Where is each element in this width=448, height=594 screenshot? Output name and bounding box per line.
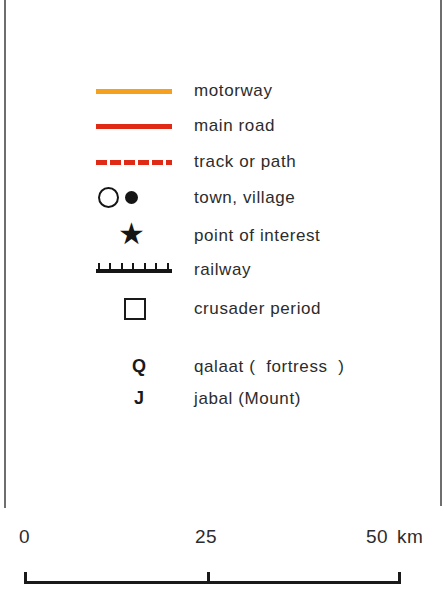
town-circle-icon [98,187,119,208]
scale-bar [24,581,401,584]
legend-item-main-road: main road [0,111,448,141]
legend-label: point of interest [194,226,320,246]
scale-unit: km [397,526,423,548]
scale-bar-group: 0 25 50 km [0,520,448,580]
scale-label-0: 0 [19,526,30,548]
village-dot-icon [125,191,138,204]
legend-label: railway [194,260,251,280]
star-icon: ★ [118,219,145,249]
legend-label: crusader period [194,299,321,319]
legend-item-poi: ★ point of interest [0,221,448,251]
legend-label: track or path [194,152,296,172]
legend-item-railway: railway [0,255,448,285]
legend-label: main road [194,116,275,136]
legend-item-qalaat: Q qalaat ( fortress ) [0,352,448,382]
railway-line-icon [96,269,172,273]
legend-item-crusader: crusader period [0,294,448,324]
track-dashed-line-icon [96,160,172,165]
legend-label: town, village [194,188,295,208]
legend-item-motorway: motorway [0,76,448,106]
legend-label: jabal (Mount) [194,389,301,409]
scale-label-25: 25 [195,526,217,548]
legend-label: motorway [194,81,273,101]
legend-label: qalaat ( fortress ) [194,357,345,377]
main-road-line-icon [96,124,172,129]
letter-q-icon: Q [100,355,178,377]
legend-item-jabal: J jabal (Mount) [0,384,448,414]
legend-item-track: track or path [0,147,448,177]
square-icon [124,298,146,320]
legend-item-town: town, village [0,183,448,213]
letter-j-icon: J [100,387,178,409]
motorway-line-icon [96,89,172,94]
scale-label-50: 50 [366,526,388,548]
